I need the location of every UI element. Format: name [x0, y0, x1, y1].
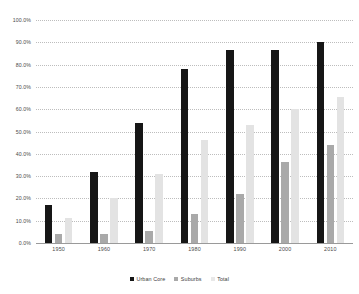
- bar-total-2000: [291, 109, 299, 243]
- bar-suburbs-1980: [191, 214, 199, 243]
- legend-item-urban-core[interactable]: Urban Core: [130, 276, 165, 282]
- x-tick-label-1980: 1980: [188, 246, 201, 252]
- bar-urban-core-1960: [90, 172, 98, 243]
- bar-urban-core-1970: [135, 123, 143, 243]
- bar-total-1960: [110, 198, 118, 243]
- x-tick-label-2000: 2000: [279, 246, 292, 252]
- x-tick-label-1960: 1960: [98, 246, 111, 252]
- bar-suburbs-2010: [327, 145, 335, 243]
- bars-layer: [36, 20, 353, 243]
- bar-urban-core-1990: [226, 50, 234, 243]
- legend-item-suburbs[interactable]: Suburbs: [174, 276, 201, 282]
- bar-suburbs-1960: [100, 234, 108, 243]
- legend-swatch-icon: [130, 277, 134, 281]
- x-axis: 1950196019701980199020002010: [36, 246, 353, 258]
- x-tick-label-1970: 1970: [143, 246, 156, 252]
- legend-swatch-icon: [211, 277, 215, 281]
- bar-suburbs-1950: [55, 234, 63, 243]
- bar-total-1950: [65, 218, 73, 243]
- y-tick-label: 80.0%: [16, 62, 31, 68]
- bar-urban-core-1980: [181, 69, 189, 243]
- x-tick-label-1950: 1950: [52, 246, 65, 252]
- bar-total-1980: [201, 140, 209, 243]
- legend-label: Total: [217, 276, 229, 282]
- bar-urban-core-2010: [317, 42, 325, 243]
- bar-urban-core-2000: [271, 50, 279, 243]
- bar-suburbs-1970: [145, 231, 153, 243]
- y-tick-label: 100.0%: [13, 17, 31, 23]
- y-tick-label: 60.0%: [16, 106, 31, 112]
- y-tick-label: 90.0%: [16, 39, 31, 45]
- legend-item-total[interactable]: Total: [211, 276, 229, 282]
- y-tick-label: 20.0%: [16, 195, 31, 201]
- legend-label: Urban Core: [136, 276, 165, 282]
- x-tick-label-1990: 1990: [233, 246, 246, 252]
- gridline-0.0%: [36, 243, 353, 244]
- bar-urban-core-1950: [45, 205, 53, 243]
- bar-total-2010: [337, 97, 345, 243]
- y-tick-label: 50.0%: [16, 129, 31, 135]
- legend-swatch-icon: [174, 277, 178, 281]
- legend-label: Suburbs: [181, 276, 202, 282]
- bar-suburbs-1990: [236, 194, 244, 243]
- y-tick-label: 30.0%: [16, 173, 31, 179]
- chart-legend: Urban CoreSuburbsTotal: [0, 276, 359, 282]
- y-tick-label: 40.0%: [16, 151, 31, 157]
- x-tick-label-2010: 2010: [324, 246, 337, 252]
- bar-chart: 0.0%10.0%20.0%30.0%40.0%50.0%60.0%70.0%8…: [0, 0, 359, 294]
- y-tick-label: 10.0%: [16, 218, 31, 224]
- bar-total-1990: [246, 125, 254, 243]
- y-axis: 0.0%10.0%20.0%30.0%40.0%50.0%60.0%70.0%8…: [0, 20, 34, 243]
- y-tick-label: 0.0%: [19, 240, 31, 246]
- bar-total-1970: [155, 174, 163, 243]
- y-tick-label: 70.0%: [16, 84, 31, 90]
- bar-suburbs-2000: [281, 162, 289, 243]
